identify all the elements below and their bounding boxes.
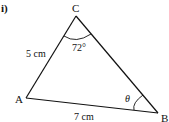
vertex-label-b: B [161,112,168,122]
angle-arc-b [134,95,143,110]
angle-label-theta: θ [125,93,130,104]
part-label: i) [1,2,8,15]
triangle-diagram: i) C A B 5 cm 7 cm 72° θ [0,0,169,122]
vertex-label-a: A [15,93,23,105]
angle-arc-c [64,34,91,40]
vertex-label-c: C [72,2,79,14]
side-label-ab: 7 cm [74,111,94,122]
side-label-ac: 5 cm [26,48,46,59]
side-cb [76,16,158,113]
angle-label-c: 72° [72,42,86,53]
